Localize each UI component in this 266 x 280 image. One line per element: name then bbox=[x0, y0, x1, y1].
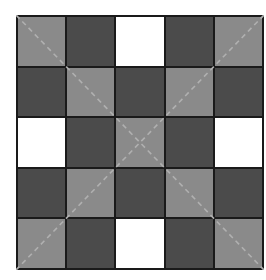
grid-cell-dark bbox=[17, 168, 66, 219]
grid-cell-dark bbox=[214, 168, 263, 219]
grid-cell-dark bbox=[66, 218, 115, 269]
grid-cell-dark bbox=[165, 218, 214, 269]
grid-cell-dark bbox=[115, 67, 164, 118]
grid-cell-dark bbox=[165, 16, 214, 67]
grid-cell-dark bbox=[214, 67, 263, 118]
grid-cell-dark bbox=[165, 117, 214, 168]
grid-cell-dark bbox=[66, 117, 115, 168]
grid-cell-dark bbox=[17, 67, 66, 118]
grid-cell-light bbox=[214, 16, 263, 67]
grid-cell-dark bbox=[115, 168, 164, 219]
grid-cell-white bbox=[115, 218, 164, 269]
grid-cell-white bbox=[115, 16, 164, 67]
grid-cell-light bbox=[66, 67, 115, 118]
grid-cell-light bbox=[165, 67, 214, 118]
checker-grid bbox=[16, 15, 264, 270]
grid-cell-light bbox=[17, 16, 66, 67]
grid-cell-dark bbox=[66, 16, 115, 67]
grid-cell-white bbox=[17, 117, 66, 168]
grid-cell-light bbox=[115, 117, 164, 168]
grid-cell-light bbox=[66, 168, 115, 219]
grid-cell-white bbox=[214, 117, 263, 168]
grid-cell-light bbox=[165, 168, 214, 219]
grid-cell-light bbox=[17, 218, 66, 269]
grid-cell-light bbox=[214, 218, 263, 269]
